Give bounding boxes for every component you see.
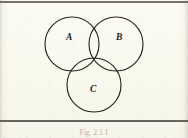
venn-circle-b bbox=[89, 17, 143, 71]
bottom-frame-rule bbox=[0, 120, 188, 122]
venn-circle-a bbox=[45, 17, 99, 71]
venn-diagram bbox=[0, 0, 188, 122]
figure-caption: Fig. 2.1.1 bbox=[0, 128, 188, 138]
figure-page: A B C Fig. 2.1.1 bbox=[0, 0, 188, 138]
set-label-b: B bbox=[116, 33, 122, 43]
set-label-a: A bbox=[66, 33, 72, 43]
set-label-c: C bbox=[90, 85, 96, 95]
